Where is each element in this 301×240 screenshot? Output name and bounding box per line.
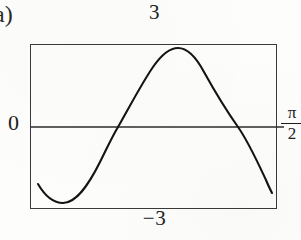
xmax-label: π 2 xyxy=(281,104,301,143)
xmax-numerator: π xyxy=(281,104,301,122)
ymin-label: −3 xyxy=(0,208,301,229)
xmax-denominator: 2 xyxy=(281,125,301,143)
origin-label: 0 xyxy=(8,112,19,134)
figure-page: a) 3 0 π 2 −3 xyxy=(0,0,301,240)
sine-curve xyxy=(38,48,272,203)
graph-canvas xyxy=(0,0,301,240)
